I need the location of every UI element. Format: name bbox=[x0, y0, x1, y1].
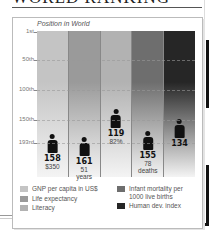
rank-annotation: deaths bbox=[138, 167, 158, 174]
rank-value: 155 bbox=[139, 151, 156, 160]
legend-label: Literacy bbox=[32, 204, 55, 212]
legend-swatch bbox=[117, 203, 125, 209]
gridline bbox=[37, 60, 195, 61]
legend-item: Human dev. index bbox=[117, 202, 199, 210]
rank-annotation: 78 bbox=[144, 160, 151, 167]
page-edge-bar bbox=[206, 165, 209, 226]
legend-left: GNP per capita in US$Life expectancyLite… bbox=[20, 185, 110, 214]
legend-swatch bbox=[20, 186, 28, 192]
y-tick-label: 150th bbox=[12, 116, 34, 122]
bar-column: 158$350 bbox=[37, 31, 69, 177]
person-icon bbox=[175, 119, 185, 138]
bar-column: 16151years bbox=[69, 31, 101, 177]
gridline bbox=[37, 120, 195, 121]
y-tick-label: 50th bbox=[12, 56, 34, 62]
rank-marker: 158$350 bbox=[44, 134, 61, 170]
rank-marker: 15578deaths bbox=[138, 131, 158, 174]
legend-item: GNP per capita in US$ bbox=[20, 185, 110, 193]
rank-value: 158 bbox=[44, 154, 61, 163]
legend-item: Literacy bbox=[20, 204, 110, 212]
legend-swatch bbox=[20, 205, 28, 211]
plot-area: 158$35016151years11982%15578deaths134 bbox=[37, 31, 195, 177]
rank-value: 161 bbox=[76, 157, 93, 166]
rank-annotation: $350 bbox=[45, 163, 59, 170]
legend-item: Infant mortality per 1000 live births bbox=[117, 185, 199, 200]
y-tick-label: 1st bbox=[12, 28, 34, 34]
gridline bbox=[37, 90, 195, 91]
page-edge-bar bbox=[206, 40, 209, 108]
page-edge-line bbox=[204, 0, 205, 230]
legend-item: Life expectancy bbox=[20, 195, 110, 203]
page-edge-bar bbox=[203, 223, 209, 226]
legend-label: GNP per capita in US$ bbox=[32, 185, 98, 193]
gridline bbox=[37, 143, 195, 144]
bar-column: 15578deaths bbox=[132, 31, 164, 177]
rank-value: 119 bbox=[108, 129, 125, 138]
bar-column: 134 bbox=[164, 31, 195, 177]
y-tick-label: 193rd bbox=[12, 139, 34, 145]
legend-label: Human dev. index bbox=[129, 202, 181, 210]
rank-annotation: 51 bbox=[81, 166, 88, 173]
legend-swatch bbox=[117, 186, 125, 192]
legend-label: Infant mortality per 1000 live births bbox=[129, 185, 199, 200]
y-tick-label: 100th bbox=[12, 86, 34, 92]
person-icon bbox=[111, 109, 121, 128]
legend-swatch bbox=[20, 196, 28, 202]
bar-column: 11982% bbox=[101, 31, 133, 177]
legend-right: Infant mortality per 1000 live birthsHum… bbox=[117, 185, 199, 212]
legend-label: Life expectancy bbox=[32, 195, 77, 203]
person-icon bbox=[79, 137, 89, 156]
title-underline bbox=[12, 7, 202, 8]
person-icon bbox=[143, 131, 153, 150]
chart-title: Position in World bbox=[37, 20, 90, 27]
rank-annotation: years bbox=[76, 173, 92, 180]
rank-marker: 11982% bbox=[108, 109, 125, 145]
